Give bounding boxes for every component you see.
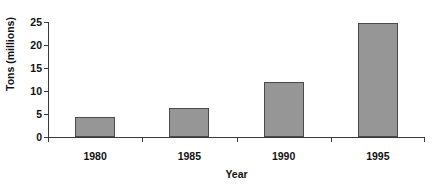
y-axis-line — [48, 22, 49, 137]
x-axis-label-1995: 1995 — [366, 150, 389, 162]
y-tick-10 — [44, 91, 48, 92]
y-axis-title: Tons (millions) — [4, 10, 18, 98]
y-tick-15 — [44, 68, 48, 69]
bar-chart-figure: Tons (millions) 0510152025 1980198519901… — [0, 0, 435, 189]
x-axis-title: Year — [48, 168, 425, 180]
bar-1980 — [75, 117, 115, 137]
plot-area: 0510152025 1980198519901995 — [48, 22, 425, 137]
y-tick-20 — [44, 45, 48, 46]
y-tick-label-25: 25 — [30, 16, 42, 28]
x-axis-label-1990: 1990 — [272, 150, 295, 162]
x-tick-4 — [424, 137, 425, 142]
y-tick-25 — [44, 22, 48, 23]
y-tick-label-5: 5 — [36, 108, 42, 120]
y-tick-label-10: 10 — [30, 85, 42, 97]
x-tick-2 — [237, 137, 238, 142]
chart-title-clipped — [0, 0, 435, 1]
x-axis-label-1980: 1980 — [83, 150, 106, 162]
bar-1990 — [264, 82, 304, 137]
y-tick-label-20: 20 — [30, 39, 42, 51]
x-tick-3 — [331, 137, 332, 142]
x-axis-label-1985: 1985 — [178, 150, 201, 162]
bar-1995 — [358, 23, 398, 137]
y-tick-5 — [44, 114, 48, 115]
x-tick-0 — [48, 137, 49, 142]
y-tick-label-0: 0 — [36, 131, 42, 143]
bar-1985 — [169, 108, 209, 137]
x-tick-1 — [142, 137, 143, 142]
y-tick-label-15: 15 — [30, 62, 42, 74]
